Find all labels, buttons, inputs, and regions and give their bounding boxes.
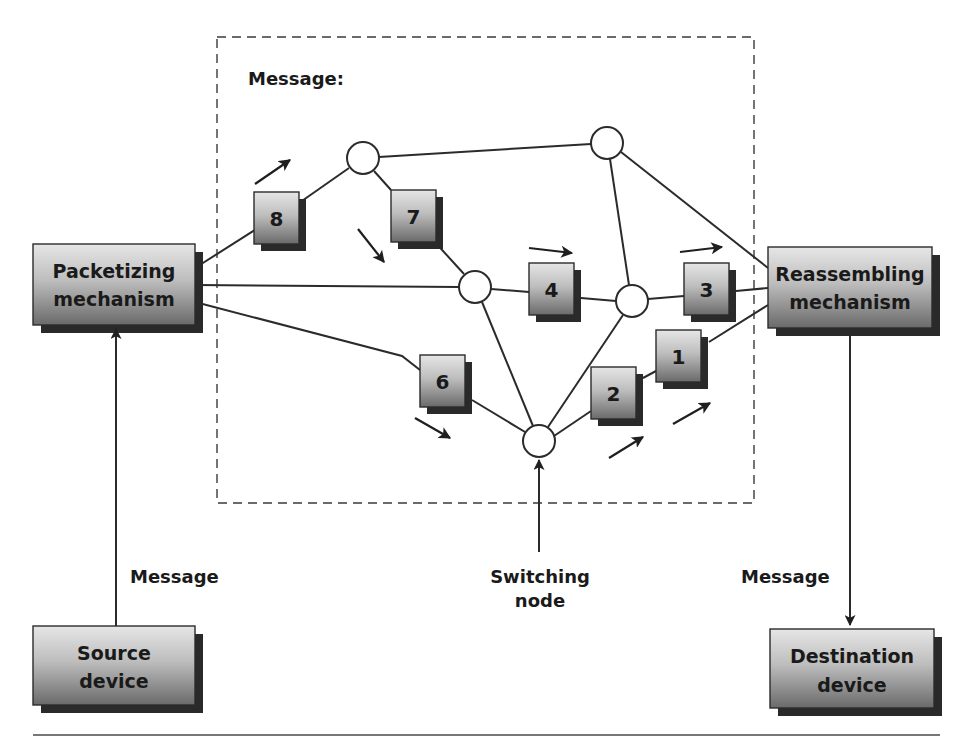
switching-node-label-line2: node [515,590,565,611]
svg-text:Reassembling: Reassembling [775,263,924,285]
svg-text:4: 4 [545,278,559,302]
network-region-border [217,37,754,503]
switching-node-label: Switching [490,566,590,587]
switching-node-3 [459,271,491,303]
svg-text:8: 8 [270,207,284,231]
reassembling-mechanism-box: Reassembling mechanism [768,247,940,336]
packet-3: 3 [684,263,736,322]
switching-node-5 [523,425,555,457]
svg-text:Source: Source [77,642,151,664]
svg-text:3: 3 [700,278,714,302]
message-region-label: Message: [248,68,344,89]
svg-text:2: 2 [607,382,621,406]
destination-device-box: Destination device [770,629,942,716]
source-device-box: Source device [33,626,203,713]
destination-message-label: Message [741,566,830,587]
direction-arrow-icon [415,418,450,438]
packet-8: 8 [254,192,306,251]
packet-7: 7 [391,190,443,249]
switching-node-2 [591,127,623,159]
svg-text:device: device [79,670,149,692]
direction-arrow-icon [673,403,710,424]
packet-6: 6 [420,355,472,414]
svg-text:device: device [817,674,887,696]
direction-arrows [255,160,722,458]
direction-arrow-icon [609,437,643,458]
switching-node-4 [616,285,648,317]
svg-text:Destination: Destination [790,645,914,667]
switching-node-1 [347,142,379,174]
packet-1: 1 [656,330,708,389]
svg-text:Packetizing: Packetizing [53,260,176,282]
svg-text:6: 6 [436,370,450,394]
source-message-label: Message [130,566,219,587]
svg-text:mechanism: mechanism [53,288,174,310]
direction-arrow-icon [680,247,722,252]
packet-4: 4 [529,263,581,322]
svg-text:7: 7 [407,205,421,229]
direction-arrow-icon [529,248,572,253]
svg-text:mechanism: mechanism [789,291,910,313]
packet-switching-diagram: Message: [0,0,973,756]
packet-2: 2 [591,367,643,426]
direction-arrow-icon [255,160,290,184]
packetizing-mechanism-box: Packetizing mechanism [33,244,203,333]
svg-text:1: 1 [672,345,686,369]
direction-arrow-icon [358,229,384,262]
